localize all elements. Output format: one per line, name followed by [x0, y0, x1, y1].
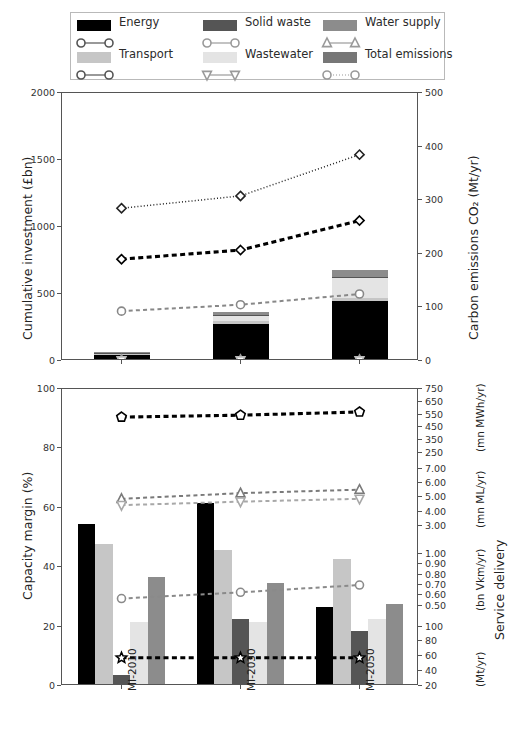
bar-segment-solid-waste [332, 277, 388, 278]
axis-tick-mark [57, 226, 61, 227]
legend-label: Transport [119, 47, 173, 61]
legend-swatch [77, 52, 111, 63]
axis-tick-mark [418, 670, 422, 671]
axis-tick-label: 300 [425, 194, 455, 205]
axis-tick-label: 0.70 [425, 579, 455, 590]
axis-tick-label: 650 [425, 395, 455, 406]
axis-tick-mark [57, 685, 61, 686]
axis-tick-mark [57, 447, 61, 448]
bar-water-supply [386, 604, 404, 684]
axis-tick-mark [418, 199, 422, 200]
axis-tick-label: 550 [425, 408, 455, 419]
legend-label: Wastewater [245, 47, 313, 61]
bar-segment-water-supply [213, 312, 269, 315]
axis-tick-mark [418, 426, 422, 427]
legend: EnergySolid wasteWater supplyTransportWa… [70, 12, 445, 80]
bar-energy [316, 607, 334, 684]
bar-energy [197, 503, 215, 684]
axis-tick-label: 40 [425, 665, 455, 676]
bottom-chart-plot-area [61, 388, 418, 685]
top-chart-y2label: Carbon emissions CO₂ (Mt/yr) [466, 155, 481, 340]
legend-swatch [323, 52, 357, 63]
x-tick-mark [240, 360, 241, 364]
axis-tick-mark [418, 605, 422, 606]
axis-tick-label: 100 [29, 383, 55, 394]
axis-tick-mark [418, 626, 422, 627]
axis-tick-mark [57, 92, 61, 93]
bar-transport [95, 544, 113, 684]
axis-tick-mark [418, 388, 422, 389]
bottom-chart-y2label: Service delivery [492, 540, 507, 640]
axis-tick-mark [418, 563, 422, 564]
axis-tick-label: 20 [29, 620, 55, 631]
axis-tick-mark [57, 360, 61, 361]
axis-tick-mark [418, 482, 422, 483]
stacked-bar [94, 352, 150, 359]
axis-tick-mark [418, 468, 422, 469]
axis-tick-mark [418, 655, 422, 656]
axis-tick-label: 0.60 [425, 589, 455, 600]
bar-segment-transport [332, 298, 388, 301]
axis-tick-label: 4.00 [425, 505, 455, 516]
axis-tick-label: 6.00 [425, 477, 455, 488]
x-tick-mark [359, 360, 360, 364]
x-tick-mark [359, 685, 360, 689]
bar-segment-transport [94, 354, 150, 355]
axis-tick-label: 80 [29, 442, 55, 453]
top-chart-plot-area [61, 92, 418, 360]
axis-tick-label: 20 [425, 680, 455, 691]
legend-label: Energy [119, 15, 159, 29]
axis-tick-mark [418, 360, 422, 361]
axis-tick-mark [418, 574, 422, 575]
axis-tick-label: 250 [425, 446, 455, 457]
axis-tick-label: 200 [425, 247, 455, 258]
axis-tick-label: 500 [425, 87, 455, 98]
bar-transport [333, 559, 351, 684]
axis-tick-mark [418, 306, 422, 307]
axis-tick-mark [57, 566, 61, 567]
axis-tick-mark [57, 388, 61, 389]
legend-label: Total emissions [365, 47, 452, 61]
axis-tick-label: 0 [29, 355, 55, 366]
axis-tick-mark [418, 553, 422, 554]
axis-tick-label: 0 [425, 355, 455, 366]
axis-tick-label: 5.00 [425, 491, 455, 502]
x-tick-label-mi-2030: MI-2030 [245, 648, 257, 691]
axis-tick-mark [57, 293, 61, 294]
axis-tick-mark [418, 511, 422, 512]
x-tick-mark [121, 360, 122, 364]
axis-tick-label: 100 [425, 620, 455, 631]
bar-segment-energy [94, 355, 150, 359]
axis-tick-mark [418, 414, 422, 415]
legend-swatch [77, 20, 111, 31]
legend-line-sample [203, 69, 239, 79]
bar-segment-solid-waste [213, 315, 269, 316]
axis-tick-label: 0 [29, 680, 55, 691]
legend-line-sample [323, 69, 359, 79]
axis-tick-mark [418, 146, 422, 147]
axis-tick-label: 0.90 [425, 558, 455, 569]
axis-tick-mark [418, 525, 422, 526]
axis-tick-label: 400 [425, 140, 455, 151]
axis-tick-label: 80 [425, 635, 455, 646]
axis-tick-label: 100 [425, 301, 455, 312]
legend-line-sample [77, 69, 113, 79]
axis-tick-mark [418, 640, 422, 641]
legend-label: Water supply [365, 15, 441, 29]
axis-tick-mark [418, 253, 422, 254]
axis-tick-mark [418, 584, 422, 585]
legend-swatch [203, 52, 237, 63]
x-tick-mark [240, 685, 241, 689]
bar-transport [214, 550, 232, 684]
axis-tick-label: 2000 [29, 87, 55, 98]
axis-unit-label: (mn ML/yr) [474, 471, 486, 528]
axis-tick-label: 60 [425, 650, 455, 661]
axis-tick-mark [418, 594, 422, 595]
stacked-bar [213, 312, 269, 359]
axis-tick-label: 350 [425, 434, 455, 445]
axis-tick-mark [57, 159, 61, 160]
axis-unit-label: (Mt/yr) [474, 652, 486, 687]
axis-tick-mark [418, 92, 422, 93]
legend-swatch [203, 20, 237, 31]
axis-tick-mark [418, 496, 422, 497]
